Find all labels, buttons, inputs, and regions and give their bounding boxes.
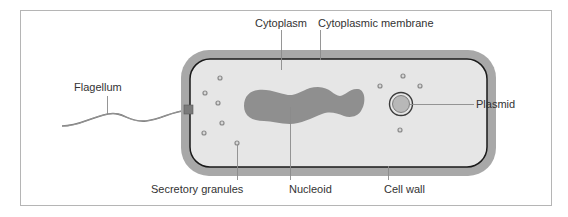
prokaryotic-cell-diagram: Cytoplasm Cytoplasmic membrane Flagellum… <box>0 0 568 217</box>
plasmid <box>390 93 413 116</box>
label-flagellum: Flagellum <box>74 81 122 93</box>
label-nucleoid: Nucleoid <box>289 183 332 195</box>
label-secretory-granules: Secretory granules <box>151 183 244 195</box>
label-cytoplasm: Cytoplasm <box>255 17 307 29</box>
label-plasmid: Plasmid <box>476 98 515 110</box>
label-cell-wall: Cell wall <box>384 183 425 195</box>
flagellum-basal-body <box>184 105 193 114</box>
label-cytoplasmic-membrane: Cytoplasmic membrane <box>318 17 434 29</box>
